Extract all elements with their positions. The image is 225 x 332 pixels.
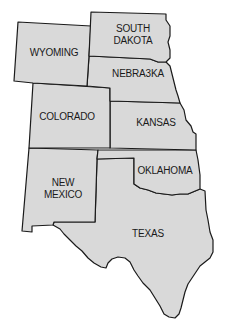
label-nebraska: NEBRA3KA: [103, 68, 173, 80]
label-south-dakota-line2: DAKOTA: [103, 35, 163, 47]
label-south-dakota-line1: SOUTH: [103, 23, 163, 35]
label-oklahoma: OKLAHOMA: [134, 165, 196, 177]
label-new-mexico-line1: NEW: [33, 177, 93, 189]
label-new-mexico-line2: MEXICO: [33, 189, 93, 201]
label-wyoming: WYOMING: [24, 47, 84, 59]
label-colorado: COLORADO: [32, 111, 102, 123]
label-kansas: KANSAS: [126, 117, 186, 129]
label-south-dakota: SOUTH DAKOTA: [103, 23, 163, 47]
label-texas: TEXAS: [128, 228, 168, 240]
label-new-mexico: NEW MEXICO: [33, 177, 93, 201]
